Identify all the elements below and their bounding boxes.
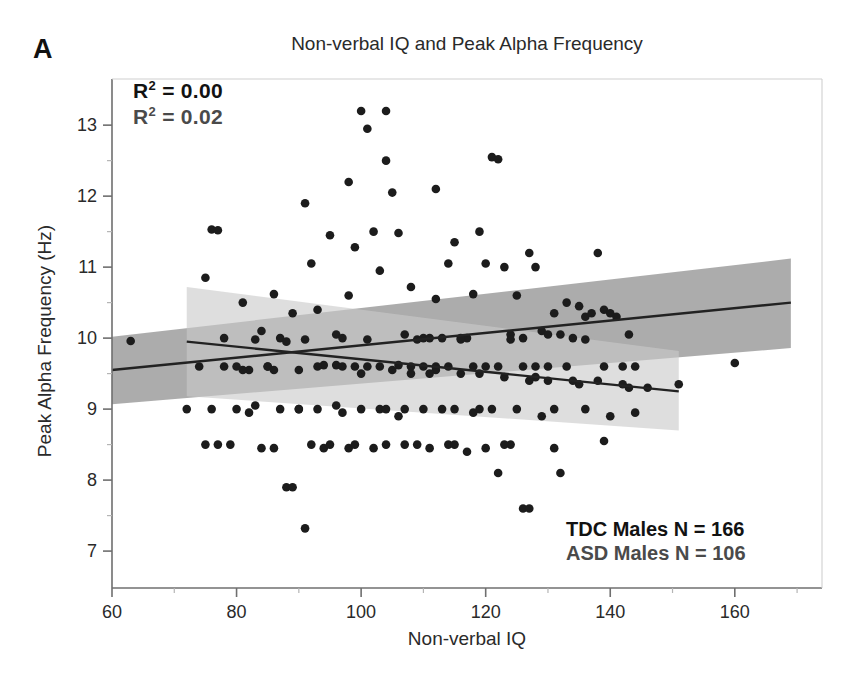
y-tick-label: 10 bbox=[77, 328, 97, 348]
data-point-asd bbox=[288, 483, 297, 492]
data-point-tdc bbox=[369, 227, 378, 236]
x-tick-label: 80 bbox=[227, 602, 247, 622]
data-point-tdc bbox=[338, 334, 347, 343]
data-point-asd bbox=[481, 444, 490, 453]
data-point-tdc bbox=[550, 309, 559, 318]
data-point-asd bbox=[201, 440, 210, 449]
data-point-asd bbox=[631, 408, 640, 417]
data-point-tdc bbox=[201, 273, 210, 282]
data-point-tdc bbox=[301, 199, 310, 208]
data-point-asd bbox=[307, 440, 316, 449]
data-point-tdc bbox=[388, 188, 397, 197]
y-tick-label: 13 bbox=[77, 115, 97, 135]
data-point-asd bbox=[556, 469, 565, 478]
data-point-asd bbox=[600, 437, 609, 446]
figure-panel: A Non-verbal IQ and Peak Alpha Frequency… bbox=[0, 0, 855, 691]
data-point-tdc bbox=[531, 263, 540, 272]
y-tick-label: 7 bbox=[87, 541, 97, 561]
data-point-asd bbox=[550, 444, 559, 453]
data-point-tdc bbox=[593, 249, 602, 258]
data-point-tdc bbox=[581, 335, 590, 344]
data-point-asd bbox=[382, 440, 391, 449]
x-tick-label: 100 bbox=[346, 602, 376, 622]
data-point-asd bbox=[394, 412, 403, 421]
data-point-tdc bbox=[400, 330, 409, 339]
data-point-tdc bbox=[587, 309, 596, 318]
data-point-asd bbox=[207, 405, 216, 414]
data-point-tdc bbox=[519, 362, 528, 371]
data-point-asd bbox=[301, 524, 310, 533]
data-point-asd bbox=[525, 504, 534, 513]
data-point-tdc bbox=[376, 266, 385, 275]
data-point-asd bbox=[182, 405, 191, 414]
data-point-tdc bbox=[351, 243, 360, 252]
data-point-asd bbox=[357, 405, 366, 414]
data-point-tdc bbox=[513, 291, 522, 300]
data-point-tdc bbox=[351, 362, 360, 371]
data-point-asd bbox=[550, 405, 559, 414]
data-point-tdc bbox=[257, 327, 266, 336]
data-point-tdc bbox=[313, 305, 322, 314]
data-point-tdc bbox=[326, 231, 335, 240]
data-point-asd bbox=[238, 366, 247, 375]
data-point-asd bbox=[295, 366, 304, 375]
data-point-asd bbox=[425, 444, 434, 453]
data-point-tdc bbox=[357, 107, 366, 116]
data-point-asd bbox=[463, 447, 472, 456]
data-point-tdc bbox=[376, 362, 385, 371]
data-point-asd bbox=[450, 405, 459, 414]
data-point-tdc bbox=[282, 337, 291, 346]
data-point-tdc bbox=[307, 259, 316, 268]
data-point-tdc bbox=[481, 259, 490, 268]
data-point-tdc bbox=[625, 330, 634, 339]
data-point-asd bbox=[581, 405, 590, 414]
data-point-asd bbox=[276, 405, 285, 414]
data-point-tdc bbox=[562, 298, 571, 307]
data-point-asd bbox=[251, 401, 260, 410]
y-tick-label: 8 bbox=[87, 470, 97, 490]
data-point-asd bbox=[488, 405, 497, 414]
data-point-tdc bbox=[544, 330, 553, 339]
x-tick-label: 140 bbox=[595, 602, 625, 622]
x-tick-label: 120 bbox=[471, 602, 501, 622]
data-point-tdc bbox=[494, 362, 503, 371]
data-point-asd bbox=[195, 362, 204, 371]
data-point-tdc bbox=[301, 335, 310, 344]
data-point-asd bbox=[537, 412, 546, 421]
data-point-tdc bbox=[432, 185, 441, 194]
data-point-tdc bbox=[569, 334, 578, 343]
data-point-tdc bbox=[519, 334, 528, 343]
data-point-tdc bbox=[562, 362, 571, 371]
x-tick-label: 60 bbox=[102, 602, 122, 622]
data-point-tdc bbox=[407, 283, 416, 292]
data-point-asd bbox=[270, 444, 279, 453]
data-point-tdc bbox=[251, 335, 260, 344]
data-point-asd bbox=[407, 369, 416, 378]
data-point-asd bbox=[400, 405, 409, 414]
data-point-asd bbox=[606, 412, 615, 421]
data-point-asd bbox=[419, 405, 428, 414]
data-point-asd bbox=[270, 366, 279, 375]
data-point-tdc bbox=[469, 290, 478, 299]
data-point-tdc bbox=[544, 362, 553, 371]
data-point-tdc bbox=[344, 178, 353, 187]
data-point-tdc bbox=[394, 229, 403, 238]
data-point-asd bbox=[475, 405, 484, 414]
data-point-tdc bbox=[344, 291, 353, 300]
data-point-asd bbox=[257, 444, 266, 453]
data-point-tdc bbox=[494, 155, 503, 164]
data-point-tdc bbox=[270, 290, 279, 299]
scatter-plot-canvas: 789101112136080100120140160 bbox=[0, 0, 855, 691]
data-point-asd bbox=[674, 380, 683, 389]
data-point-asd bbox=[357, 369, 366, 378]
data-point-tdc bbox=[382, 107, 391, 116]
y-tick-label: 12 bbox=[77, 186, 97, 206]
data-point-tdc bbox=[475, 227, 484, 236]
data-point-asd bbox=[338, 362, 347, 371]
y-tick-label: 9 bbox=[87, 399, 97, 419]
data-point-asd bbox=[388, 366, 397, 375]
data-point-tdc bbox=[731, 359, 740, 368]
data-point-asd bbox=[326, 440, 335, 449]
data-point-asd bbox=[494, 469, 503, 478]
data-point-asd bbox=[313, 405, 322, 414]
